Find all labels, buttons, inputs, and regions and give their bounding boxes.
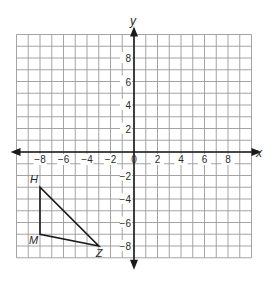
x-tick-label: −4 — [81, 154, 93, 165]
vertex-label-H: H — [30, 173, 38, 185]
y-tick-label: 6 — [125, 77, 131, 88]
x-tick-label: 4 — [178, 154, 184, 165]
y-tick-label: −6 — [120, 218, 132, 229]
coordinate-plane: −8−6−4−2024688642−2−4−6−8 HMZ x y — [0, 0, 275, 288]
y-axis-label: y — [129, 14, 137, 28]
y-tick-label: 2 — [125, 124, 131, 135]
triangle-outline — [40, 187, 99, 246]
x-axis-label: x — [255, 146, 263, 160]
y-tick-label: −4 — [120, 194, 132, 205]
arrow-up-icon — [130, 27, 138, 37]
y-tick-label: 4 — [125, 100, 131, 111]
vertex-label-Z: Z — [95, 247, 104, 259]
x-tick-label: 0 — [131, 154, 137, 165]
x-tick-label: 6 — [202, 154, 208, 165]
axes — [11, 27, 262, 270]
x-tick-label: −8 — [34, 154, 46, 165]
arrow-down-icon — [130, 260, 138, 270]
x-tick-label: −2 — [105, 154, 117, 165]
y-tick-label: −8 — [120, 241, 132, 252]
x-tick-label: 8 — [225, 154, 231, 165]
arrow-left-icon — [11, 148, 21, 156]
x-tick-label: −6 — [58, 154, 70, 165]
y-tick-label: 8 — [125, 53, 131, 64]
vertex-label-M: M — [29, 234, 39, 246]
y-tick-label: −2 — [120, 171, 132, 182]
x-tick-label: 2 — [155, 154, 161, 165]
